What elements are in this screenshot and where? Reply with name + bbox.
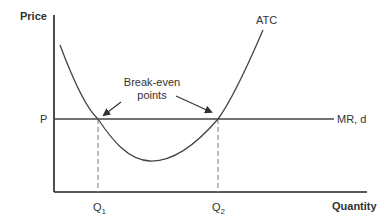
arrow-to-q2-breakeven — [176, 96, 211, 112]
q2-label: Q2 — [212, 201, 226, 216]
y-axis-label: Price — [20, 10, 47, 22]
break-even-label-line2: points — [137, 89, 167, 101]
atc-label: ATC — [256, 14, 277, 26]
price-level-label: P — [40, 113, 47, 125]
q2-label-subscript: 2 — [221, 207, 226, 216]
arrow-to-q1-breakeven — [104, 102, 121, 115]
break-even-label-line1: Break-even — [124, 76, 180, 88]
break-even-diagram: Price Quantity MR, d P ATC Break-even po… — [0, 0, 387, 223]
q1-label-subscript: 1 — [102, 207, 107, 216]
mr-label: MR, d — [337, 113, 366, 125]
q1-label: Q1 — [93, 201, 107, 216]
x-axis-label: Quantity — [332, 200, 377, 212]
